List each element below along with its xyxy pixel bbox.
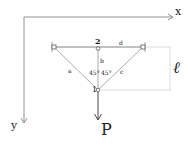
member-a-label: a bbox=[68, 68, 72, 74]
member-d-label: d bbox=[119, 40, 123, 46]
truss-diagram: x y 2 1 d a b c 45° 45° ℓ P bbox=[0, 0, 188, 148]
y-axis bbox=[21, 17, 27, 123]
left-support-node bbox=[52, 45, 56, 49]
angle-right-label: 45° bbox=[101, 70, 112, 76]
y-axis-label: y bbox=[11, 120, 17, 131]
x-axis-label: x bbox=[175, 6, 181, 17]
dimension-length-label: ℓ bbox=[173, 60, 180, 76]
member-c-label: c bbox=[120, 69, 123, 75]
x-axis bbox=[24, 14, 173, 20]
load-p-label: P bbox=[101, 122, 112, 138]
node-2 bbox=[96, 47, 100, 51]
right-support-node bbox=[141, 45, 145, 49]
load-arrow bbox=[95, 92, 102, 120]
node-2-label: 2 bbox=[95, 37, 101, 45]
member-b-label: b bbox=[100, 58, 104, 64]
node-1-label: 1 bbox=[92, 86, 97, 94]
angle-left-label: 45° bbox=[89, 70, 100, 76]
